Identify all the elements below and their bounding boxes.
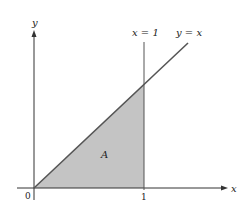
x-axis-arrow-icon	[221, 186, 228, 191]
tick-x-one: 1	[141, 192, 147, 201]
tick-origin: 0	[25, 191, 31, 201]
y-axis-arrow-icon	[32, 30, 37, 37]
diagram-canvas: y x x = 1 y = x A 0 1	[0, 0, 240, 201]
region-a-label: A	[100, 149, 108, 160]
label-x-equals-1: x = 1	[132, 27, 159, 38]
y-axis-label: y	[31, 17, 38, 28]
x-axis-label: x	[231, 183, 237, 194]
label-y-equals-x: y = x	[175, 27, 202, 38]
